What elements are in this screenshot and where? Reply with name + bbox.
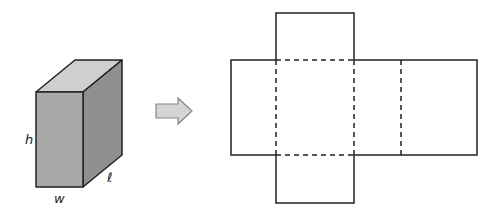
diagram-canvas: h w ℓ — [0, 0, 501, 217]
length-label: ℓ — [106, 170, 112, 185]
right-arrow-icon — [156, 98, 192, 124]
prism-net — [231, 13, 477, 203]
height-label: h — [25, 132, 33, 147]
prism-front-face — [36, 92, 83, 187]
rectangular-prism — [36, 60, 122, 187]
fold-lines — [276, 60, 401, 155]
width-label: w — [54, 191, 65, 206]
